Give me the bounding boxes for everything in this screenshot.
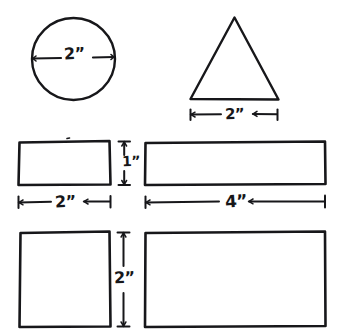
square-shape [20,232,111,328]
figure-canvas: 2” 2” 2” 1” 4” 2” [0,0,337,335]
rect-large-shape [145,232,326,328]
triangle-base-label: 2” [225,105,245,124]
rect-small-width-label: 2” [55,191,77,211]
square-height-label: 2” [114,268,135,288]
circle-diameter-label: 2” [64,43,86,63]
rect-small-shape [19,138,111,185]
figure-drawing [0,0,337,335]
rect-long-width-label: 4” [224,190,247,211]
triangle-shape [191,18,279,100]
rect-long-shape [145,142,326,186]
rect-small-height-label: 1” [122,153,141,170]
